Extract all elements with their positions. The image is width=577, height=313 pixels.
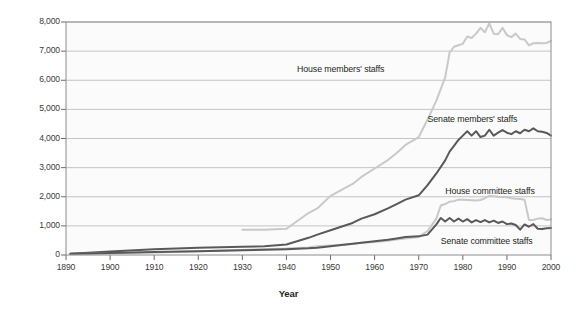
y-tick-label: 5,000 [20,103,60,113]
y-tick-label: 8,000 [20,16,60,26]
y-tick-label: 0 [20,249,60,259]
series-label: Senate committee staffs [441,236,533,246]
x-axis-title: Year [0,288,577,299]
x-tick-label: 1930 [222,262,262,272]
y-tick-label: 4,000 [20,133,60,143]
y-tick-label: 2,000 [20,191,60,201]
x-tick-label: 1920 [178,262,218,272]
y-tick-label: 3,000 [20,162,60,172]
x-tick-label: 2000 [531,262,571,272]
employment-line-chart: Number of Employees Year 01,0002,0003,00… [0,0,577,313]
x-tick-label: 1990 [487,262,527,272]
series-label: House members' staffs [297,64,384,74]
x-tick-label: 1940 [266,262,306,272]
x-tick-label: 1980 [443,262,483,272]
x-tick-label: 1960 [355,262,395,272]
x-tick-label: 1910 [134,262,174,272]
y-tick-label: 6,000 [20,74,60,84]
x-tick-label: 1890 [46,262,86,272]
y-tick-label: 7,000 [20,45,60,55]
x-tick-label: 1900 [90,262,130,272]
x-tick-label: 1970 [399,262,439,272]
series-label: House committee staffs [445,186,535,196]
x-tick-label: 1950 [311,262,351,272]
series-label: Senate members' staffs [428,114,518,124]
y-tick-label: 1,000 [20,220,60,230]
